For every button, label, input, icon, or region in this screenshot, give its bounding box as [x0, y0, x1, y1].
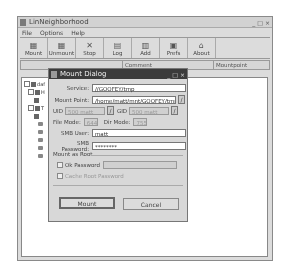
stop-button[interactable]: ✕Stop: [76, 38, 104, 58]
button-divider: [53, 185, 183, 186]
close-button[interactable]: ×: [265, 19, 270, 26]
gid-input[interactable]: 500 matt: [129, 107, 169, 115]
dialog-mount-button[interactable]: Mount: [59, 197, 115, 209]
share-icon: [38, 154, 43, 158]
computer-icon: [35, 106, 40, 111]
toolbar: ▦Mount ▦Unmount ✕Stop ▤Log ▥Add ▣Prefs ⌂…: [20, 37, 270, 59]
computer-icon: [34, 98, 39, 103]
menu-help[interactable]: Help: [71, 29, 85, 36]
log-icon: ▤: [114, 41, 122, 50]
uid-input[interactable]: 500 matt: [65, 107, 105, 115]
expander-icon[interactable]: [28, 89, 34, 95]
menu-options[interactable]: Options: [40, 29, 63, 36]
dialog-title: Mount Dialog: [60, 70, 167, 78]
cache-root-checkbox[interactable]: [57, 173, 63, 179]
share-icon: [38, 130, 43, 134]
share-icon: [38, 146, 43, 150]
smb-user-input[interactable]: matt: [92, 129, 186, 137]
prefs-icon: ▣: [170, 41, 178, 50]
gid-label: GID: [117, 108, 127, 114]
root-password-label: Ok Password: [65, 162, 100, 168]
gid-picker-button[interactable]: /: [171, 106, 178, 115]
mountpoint-browse-button[interactable]: /: [178, 95, 185, 104]
service-input[interactable]: //GOOFEY/tmp: [92, 84, 186, 92]
computer-icon: [34, 114, 39, 119]
filemode-input[interactable]: 644: [84, 118, 98, 126]
mount-icon: ▦: [30, 41, 38, 50]
menu-bar: File Options Help: [18, 28, 272, 37]
about-icon: ⌂: [199, 41, 204, 50]
group-divider: [91, 155, 183, 156]
smb-password-input[interactable]: ********: [92, 142, 186, 150]
filemode-label: File Mode:: [53, 119, 81, 125]
dirmode-input[interactable]: 755: [133, 118, 147, 126]
mountpoint-label: Mount Point:: [53, 97, 89, 103]
about-button[interactable]: ⌂About: [188, 38, 216, 58]
add-icon: ▥: [142, 41, 150, 50]
unmount-button[interactable]: ▦Unmount: [48, 38, 76, 58]
share-icon: [38, 138, 43, 142]
dialog-titlebar[interactable]: Mount Dialog _ □ ×: [49, 69, 187, 79]
dialog-app-icon: [51, 71, 57, 78]
minimize-button[interactable]: _: [252, 19, 255, 26]
column-header-mountpoint[interactable]: Mountpoint: [214, 61, 269, 69]
expander-icon[interactable]: [24, 81, 30, 87]
cache-root-password-label: Cache Root Password: [65, 173, 124, 179]
mountpoint-input[interactable]: /home/matt/mnt/GOOFEY/tmp/: [92, 96, 176, 104]
maximize-button[interactable]: □: [257, 19, 263, 26]
unmount-icon: ▦: [58, 41, 66, 50]
smb-user-label: SMB User:: [53, 130, 89, 136]
log-button[interactable]: ▤Log: [104, 38, 132, 58]
window-title: LinNeighborhood: [29, 18, 252, 26]
stop-icon: ✕: [86, 41, 93, 50]
app-icon: [20, 19, 26, 26]
prefs-button[interactable]: ▣Prefs: [160, 38, 188, 58]
service-label: Service:: [53, 85, 89, 91]
dialog-cancel-button[interactable]: Cancel: [123, 198, 179, 210]
computer-icon: [35, 90, 40, 95]
mount-button[interactable]: ▦Mount: [20, 38, 48, 58]
main-titlebar[interactable]: LinNeighborhood _ □ ×: [18, 17, 272, 28]
dialog-maximize-button[interactable]: □: [172, 71, 178, 78]
root-password-input[interactable]: [103, 161, 177, 169]
dirmode-label: Dir Mode:: [104, 119, 131, 125]
dialog-close-button[interactable]: ×: [180, 71, 185, 78]
uid-label: UID: [53, 108, 63, 114]
network-icon: [31, 82, 36, 87]
share-icon: [38, 122, 43, 126]
mount-as-root-label: Mount as Root: [53, 151, 92, 157]
dialog-minimize-button[interactable]: _: [167, 71, 170, 78]
uid-picker-button[interactable]: /: [107, 106, 114, 115]
expander-icon[interactable]: [28, 105, 34, 111]
menu-file[interactable]: File: [22, 29, 32, 36]
add-button[interactable]: ▥Add: [132, 38, 160, 58]
mount-dialog: Mount Dialog _ □ × Service: //GOOFEY/tmp…: [48, 68, 188, 222]
root-ok-checkbox[interactable]: [57, 162, 63, 168]
